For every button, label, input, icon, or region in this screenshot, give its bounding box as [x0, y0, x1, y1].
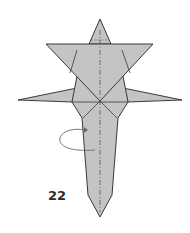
- step-number: 22: [48, 188, 66, 203]
- left-wing: [18, 88, 77, 102]
- right-wing: [123, 88, 182, 102]
- origami-diagram: [0, 0, 190, 233]
